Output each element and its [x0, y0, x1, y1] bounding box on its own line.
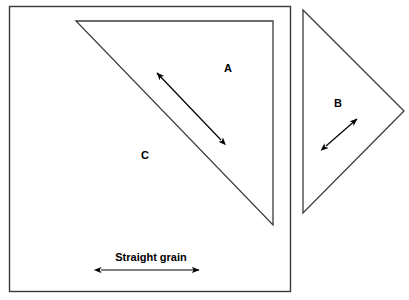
grain-arrow-a: [157, 73, 221, 140]
square-block-outline: [10, 7, 291, 292]
label-straight-grain: Straight grain: [115, 251, 187, 263]
quilt-cutting-diagram: A B C Straight grain: [0, 0, 409, 300]
label-piece-b: B: [334, 97, 342, 109]
triangle-b: [303, 10, 404, 213]
triangle-a: [76, 21, 273, 225]
label-piece-c: C: [141, 149, 149, 161]
diagram-canvas: A B C Straight grain: [0, 0, 409, 300]
label-piece-a: A: [224, 62, 232, 74]
grain-arrow-b: [326, 119, 357, 146]
